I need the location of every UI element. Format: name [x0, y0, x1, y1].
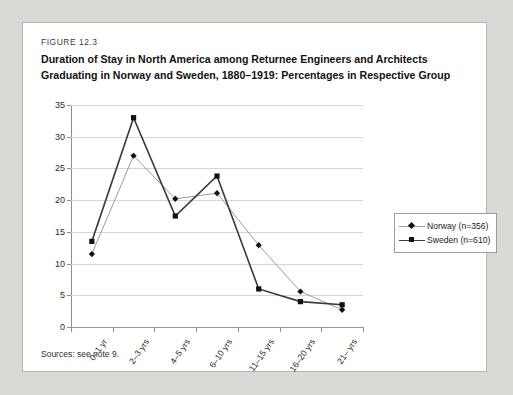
figure-number: FIGURE 12.3 — [41, 37, 98, 47]
legend-item-sweden: Sweden (n=610) — [399, 233, 490, 247]
diamond-marker-icon — [408, 222, 415, 229]
gridline-0 — [71, 327, 363, 328]
legend-label-norway: Norway (n=356) — [427, 221, 488, 231]
chart-plot-area: 05101520253035 0–1 yr2–3 yrs4–5 yrs6–10 … — [71, 105, 363, 327]
data-point-sweden-4 — [256, 286, 261, 291]
x-tick-label-5: 16–20 yrs — [288, 337, 318, 374]
square-marker-icon — [409, 237, 414, 242]
data-point-norway-0 — [89, 251, 95, 257]
x-tick-mark-1 — [113, 327, 114, 332]
figure-panel: FIGURE 12.3 Duration of Stay in North Am… — [22, 22, 487, 372]
y-tick-label-15: 15 — [55, 227, 65, 237]
figure-title: Duration of Stay in North America among … — [41, 51, 471, 83]
y-tick-label-5: 5 — [60, 290, 65, 300]
y-tick-label-10: 10 — [55, 259, 65, 269]
x-tick-mark-4 — [238, 327, 239, 332]
series-line-norway — [92, 156, 342, 310]
x-tick-mark-6 — [321, 327, 322, 332]
data-point-sweden-2 — [173, 213, 178, 218]
x-tick-label-1: 2–3 yrs — [126, 337, 150, 366]
y-tick-label-30: 30 — [55, 132, 65, 142]
x-tick-mark-5 — [280, 327, 281, 332]
sources-note: Sources: see note 9. — [41, 349, 119, 359]
data-point-sweden-0 — [89, 239, 94, 244]
x-tick-mark-0 — [71, 327, 72, 332]
data-point-norway-6 — [339, 307, 345, 313]
chart-series-svg — [71, 105, 363, 327]
y-tick-label-20: 20 — [55, 195, 65, 205]
plot-frame: 05101520253035 0–1 yr2–3 yrs4–5 yrs6–10 … — [71, 105, 363, 327]
legend-swatch-norway — [399, 221, 425, 231]
x-tick-label-3: 6–10 yrs — [207, 337, 234, 370]
legend-swatch-sweden — [399, 235, 425, 245]
x-tick-label-6: 21– yrs — [335, 337, 359, 366]
x-tick-mark-7 — [363, 327, 364, 332]
data-point-sweden-1 — [131, 115, 136, 120]
data-point-sweden-5 — [298, 299, 303, 304]
x-tick-label-2: 4–5 yrs — [168, 337, 192, 366]
x-tick-label-4: 11–15 yrs — [246, 337, 275, 373]
series-line-sweden — [92, 118, 342, 305]
legend-item-norway: Norway (n=356) — [399, 219, 490, 233]
y-tick-label-35: 35 — [55, 100, 65, 110]
y-tick-label-25: 25 — [55, 163, 65, 173]
data-point-sweden-6 — [340, 302, 345, 307]
chart-legend: Norway (n=356) Sweden (n=610) — [394, 213, 497, 253]
legend-label-sweden: Sweden (n=610) — [427, 235, 490, 245]
x-tick-mark-3 — [196, 327, 197, 332]
data-point-sweden-3 — [214, 173, 219, 178]
y-tick-label-0: 0 — [60, 322, 65, 332]
x-tick-mark-2 — [154, 327, 155, 332]
